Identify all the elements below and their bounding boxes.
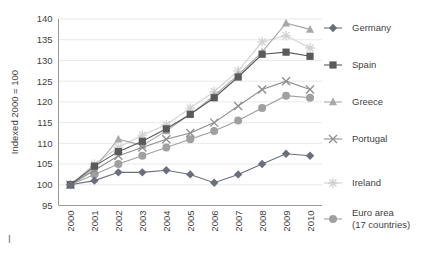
chart-legend: GermanySpainGreecePortugalIrelandEuro ar… <box>324 22 410 230</box>
diamond-marker <box>138 168 146 176</box>
circle-marker <box>210 127 218 135</box>
cross-marker <box>162 135 170 143</box>
y-tick-label: 120 <box>37 96 53 107</box>
series-spain <box>67 49 314 189</box>
diamond-marker <box>210 179 218 187</box>
legend-label: Euro area(17 countries) <box>352 207 410 230</box>
square-marker <box>211 94 218 101</box>
cross-marker <box>258 85 266 93</box>
asterisk-marker <box>305 43 315 53</box>
series-germany <box>66 149 314 188</box>
cross-marker <box>306 85 314 93</box>
diamond-marker <box>234 170 242 178</box>
x-tick-label: 2009 <box>281 211 292 232</box>
circle-marker <box>138 152 146 160</box>
y-tick-label: 115 <box>37 117 52 128</box>
diamond-marker <box>329 24 337 32</box>
legend-item-spain[interactable]: Spain <box>324 59 376 70</box>
legend-item-greece[interactable]: Greece <box>324 96 383 107</box>
y-tick-label: 135 <box>37 34 53 45</box>
x-tick-label: 2001 <box>89 211 100 232</box>
line-chart: 95100105110115120125130135140 2000200120… <box>0 0 430 254</box>
square-marker <box>329 61 336 68</box>
diamond-marker <box>282 149 290 157</box>
x-tick-labels: 2000200120022003200420052006200720082009… <box>65 211 316 232</box>
x-tick-label: 2005 <box>185 211 196 232</box>
triangle-marker <box>282 19 290 27</box>
legend-item-germany[interactable]: Germany <box>324 22 391 33</box>
circle-marker <box>234 117 242 125</box>
circle-marker <box>306 94 314 102</box>
y-tick-label: 140 <box>37 13 53 24</box>
x-tick-label: 2008 <box>257 211 268 232</box>
circle-marker <box>162 143 170 151</box>
diamond-marker <box>162 166 170 174</box>
cross-marker <box>234 102 242 110</box>
chart-container: 95100105110115120125130135140 2000200120… <box>0 0 430 254</box>
diamond-marker <box>258 160 266 168</box>
square-marker <box>139 138 146 145</box>
legend-item-euro-area-17-countries[interactable]: Euro area(17 countries) <box>324 207 410 230</box>
legend-item-portugal[interactable]: Portugal <box>324 133 387 144</box>
asterisk-marker <box>281 31 291 41</box>
y-tick-label: 110 <box>37 138 52 149</box>
asterisk-marker <box>257 37 267 47</box>
x-tick-label: 2010 <box>305 211 316 232</box>
square-marker <box>259 51 266 58</box>
x-tick-label: 2003 <box>137 211 148 232</box>
circle-marker <box>258 104 266 112</box>
diamond-marker <box>186 170 194 178</box>
y-tick-label: 100 <box>37 179 53 190</box>
legend-label: Spain <box>352 59 376 70</box>
y-tick-label: 95 <box>42 200 53 211</box>
square-marker <box>306 53 313 60</box>
diamond-marker <box>114 168 122 176</box>
legend-label: Greece <box>352 96 383 107</box>
square-marker <box>187 111 194 118</box>
circle-marker <box>114 160 122 168</box>
square-marker <box>235 73 242 80</box>
square-marker <box>282 49 289 56</box>
y-tick-label: 125 <box>37 76 53 87</box>
legend-label: Germany <box>352 22 391 33</box>
square-marker <box>91 163 98 170</box>
y-axis-title: Indexed 2000 = 100 <box>9 70 20 154</box>
y-tick-label: 105 <box>37 158 53 169</box>
x-tick-label: 2007 <box>233 211 244 232</box>
series-line <box>70 52 310 185</box>
diamond-marker <box>306 152 314 160</box>
x-tick-label: 2002 <box>113 211 124 232</box>
asterisk-marker <box>328 178 338 188</box>
legend-label: Portugal <box>352 133 387 144</box>
y-tick-labels: 95100105110115120125130135140 <box>37 13 53 211</box>
corner-mark: I <box>8 234 11 245</box>
circle-marker <box>329 215 337 223</box>
legend-item-ireland[interactable]: Ireland <box>324 177 381 188</box>
legend-label: Ireland <box>352 177 381 188</box>
triangle-marker <box>114 135 122 143</box>
diamond-marker <box>90 176 98 184</box>
square-marker <box>163 125 170 132</box>
y-axis-title-text: Indexed 2000 = 100 <box>9 70 20 154</box>
x-tick-label: 2004 <box>161 211 172 232</box>
x-tick-label: 2006 <box>209 211 220 232</box>
square-marker <box>115 148 122 155</box>
circle-marker <box>282 92 290 100</box>
y-tick-label: 130 <box>37 55 53 66</box>
x-tick-label: 2000 <box>65 211 76 232</box>
